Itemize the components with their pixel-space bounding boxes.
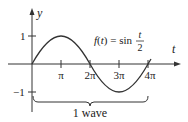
svg-text:t: t — [139, 29, 142, 40]
svg-text:f(t) = sin: f(t) = sin — [94, 34, 133, 47]
sine-wave-chart: y t 1 −1 π 2π 3π 4π f(t) = sin t 2 1 wav… — [0, 0, 188, 122]
x-tick-label-4pi: 4π — [144, 69, 156, 81]
x-tick-label-2pi: 2π — [84, 69, 96, 81]
one-wave-brace — [33, 96, 148, 106]
t-axis — [8, 62, 181, 67]
svg-text:2: 2 — [138, 42, 143, 53]
y-tick-label-1: 1 — [20, 30, 26, 42]
one-wave-label: 1 wave — [73, 106, 107, 120]
function-label: f(t) = sin t 2 — [94, 29, 144, 53]
x-tick-label-pi: π — [58, 69, 64, 81]
y-axis-label: y — [36, 6, 43, 20]
t-axis-label: t — [172, 42, 176, 56]
x-tick-label-3pi: 3π — [113, 69, 125, 81]
y-tick-label-neg1: −1 — [13, 86, 25, 98]
